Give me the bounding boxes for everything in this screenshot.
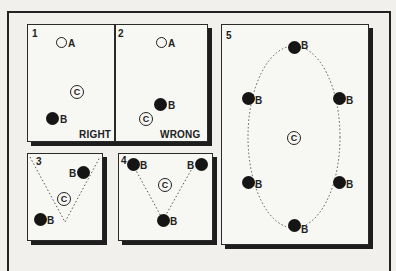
circled-c-icon: C bbox=[287, 131, 301, 145]
filled-circle-icon bbox=[154, 98, 167, 111]
filled-circle-icon bbox=[288, 219, 301, 232]
marker-label: B bbox=[60, 115, 67, 125]
filled-circle-icon bbox=[242, 92, 255, 105]
panel-4-number: 4 bbox=[121, 156, 127, 166]
filled-circle-icon bbox=[288, 41, 301, 54]
circled-c-icon: C bbox=[57, 192, 71, 206]
panel-4: 4 B B C B bbox=[118, 153, 213, 241]
filled-circle-icon bbox=[46, 112, 59, 125]
marker-label: B bbox=[255, 96, 262, 106]
marker-label: B bbox=[168, 101, 175, 111]
filled-circle-icon bbox=[333, 92, 346, 105]
marker-label: B bbox=[255, 180, 262, 190]
circled-c-icon: C bbox=[70, 85, 84, 99]
filled-circle-icon bbox=[34, 213, 47, 226]
panel-5-number: 5 bbox=[226, 31, 232, 41]
circled-c-icon: C bbox=[158, 178, 172, 192]
open-circle-icon bbox=[156, 37, 167, 48]
marker-label: B bbox=[170, 217, 177, 227]
caption-right: RIGHT bbox=[79, 130, 111, 140]
marker-label: B bbox=[187, 161, 194, 171]
open-circle-icon bbox=[56, 37, 67, 48]
panel-1-2: 1 A C B RIGHT 2 A B C WRONG bbox=[27, 24, 208, 142]
filled-circle-icon bbox=[333, 176, 346, 189]
panel-5: 5 B B B C B B B bbox=[221, 24, 369, 245]
filled-circle-icon bbox=[195, 158, 208, 171]
panel-2-number: 2 bbox=[118, 29, 124, 39]
marker-label: B bbox=[140, 161, 147, 171]
caption-wrong: WRONG bbox=[160, 130, 200, 140]
marker-label: A bbox=[168, 39, 175, 49]
filled-circle-icon bbox=[157, 214, 170, 227]
panel-3: 3 B C B bbox=[27, 153, 103, 241]
marker-label: A bbox=[68, 39, 75, 49]
filled-circle-icon bbox=[127, 158, 140, 171]
marker-label: B bbox=[301, 225, 308, 235]
marker-label: B bbox=[47, 216, 54, 226]
marker-label: B bbox=[346, 180, 353, 190]
panel-3-number: 3 bbox=[36, 157, 42, 167]
filled-circle-icon bbox=[242, 176, 255, 189]
filled-circle-icon bbox=[77, 166, 90, 179]
circled-c-icon: C bbox=[139, 112, 153, 126]
marker-label: B bbox=[301, 41, 308, 51]
marker-label: B bbox=[69, 169, 76, 179]
marker-label: B bbox=[346, 96, 353, 106]
panel-divider bbox=[114, 25, 116, 141]
panel-1-number: 1 bbox=[32, 29, 38, 39]
